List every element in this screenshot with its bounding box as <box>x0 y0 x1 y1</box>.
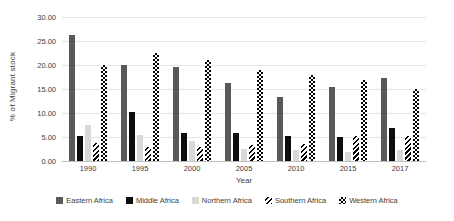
legend-item-western-africa: Western Africa <box>339 196 398 205</box>
bar-eastern-africa <box>225 83 231 161</box>
bar-northern-africa <box>189 141 195 161</box>
bar-middle-africa <box>337 137 343 161</box>
x-tick-label: 1995 <box>114 164 166 173</box>
bar-southern-africa <box>301 144 307 161</box>
legend-marker-icon <box>265 197 272 204</box>
legend-label: Eastern Africa <box>66 196 113 205</box>
legend-item-middle-africa: Middle Africa <box>126 196 179 205</box>
y-tick-label: 15.00 <box>37 85 56 94</box>
y-tick-label: 20.00 <box>37 61 56 70</box>
y-tick-label: 0.00 <box>41 157 56 166</box>
x-tick-label: 2015 <box>322 164 374 173</box>
bar-eastern-africa <box>121 65 127 161</box>
bar-group-1995 <box>114 17 166 161</box>
x-tick-label: 2000 <box>166 164 218 173</box>
bar-northern-africa <box>85 125 91 161</box>
legend-marker-icon <box>339 197 346 204</box>
bar-northern-africa <box>345 152 351 161</box>
bar-group-2000 <box>166 17 218 161</box>
y-tick-label: 25.00 <box>37 37 56 46</box>
bar-southern-africa <box>353 136 359 161</box>
legend-marker-icon <box>126 197 133 204</box>
x-tick-label: 1990 <box>62 164 114 173</box>
bar-group-2005 <box>218 17 270 161</box>
legend: Eastern AfricaMiddle AfricaNorthern Afri… <box>0 196 454 205</box>
y-axis-ticks: 0.005.0010.0015.0020.0025.0030.00 <box>0 17 56 161</box>
bar-western-africa <box>153 53 159 161</box>
y-tick-label: 30.00 <box>37 13 56 22</box>
bar-middle-africa <box>129 112 135 161</box>
legend-item-eastern-africa: Eastern Africa <box>56 196 113 205</box>
bar-middle-africa <box>77 136 83 161</box>
bar-western-africa <box>257 70 263 161</box>
bar-western-africa <box>101 65 107 161</box>
bar-southern-africa <box>93 143 99 161</box>
bar-middle-africa <box>233 133 239 161</box>
legend-label: Northern Africa <box>202 196 252 205</box>
bar-group-1990 <box>62 17 114 161</box>
bar-western-africa <box>309 75 315 161</box>
bar-eastern-africa <box>173 67 179 161</box>
legend-item-northern-africa: Northern Africa <box>192 196 252 205</box>
bar-northern-africa <box>397 150 403 161</box>
legend-marker-icon <box>192 197 199 204</box>
bar-groups <box>62 17 426 161</box>
x-axis-ticks: 1990199520002005201020152017 <box>62 164 426 173</box>
bar-southern-africa <box>249 145 255 161</box>
bar-eastern-africa <box>329 87 335 161</box>
bar-group-2010 <box>270 17 322 161</box>
bar-western-africa <box>205 60 211 161</box>
bar-group-2017 <box>374 17 426 161</box>
legend-marker-icon <box>56 197 63 204</box>
plot-area <box>62 17 426 162</box>
bar-western-africa <box>413 89 419 161</box>
legend-label: Western Africa <box>349 196 398 205</box>
bar-middle-africa <box>181 133 187 161</box>
bar-eastern-africa <box>381 78 387 161</box>
bar-eastern-africa <box>69 35 75 161</box>
bar-middle-africa <box>389 128 395 161</box>
x-tick-label: 2005 <box>218 164 270 173</box>
bar-group-2015 <box>322 17 374 161</box>
bar-northern-africa <box>137 135 143 161</box>
bar-northern-africa <box>241 149 247 161</box>
legend-label: Southern Africa <box>275 196 326 205</box>
bar-eastern-africa <box>277 97 283 161</box>
x-tick-label: 2017 <box>374 164 426 173</box>
bar-southern-africa <box>197 147 203 161</box>
legend-label: Middle Africa <box>136 196 179 205</box>
migrant-stock-bar-chart: % of Migrant stock 0.005.0010.0015.0020.… <box>0 0 454 221</box>
y-tick-label: 10.00 <box>37 109 56 118</box>
bar-southern-africa <box>405 136 411 161</box>
bar-western-africa <box>361 80 367 161</box>
bar-southern-africa <box>145 147 151 161</box>
x-tick-label: 2010 <box>270 164 322 173</box>
y-tick-label: 5.00 <box>41 133 56 142</box>
legend-item-southern-africa: Southern Africa <box>265 196 326 205</box>
bar-northern-africa <box>293 150 299 161</box>
x-axis-title: Year <box>62 176 426 185</box>
bar-middle-africa <box>285 136 291 161</box>
